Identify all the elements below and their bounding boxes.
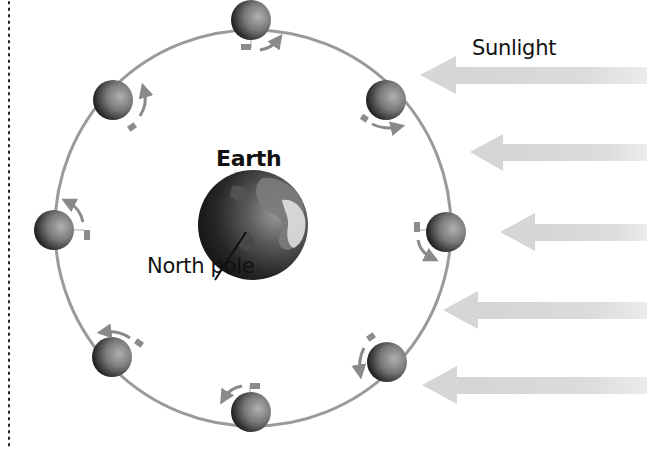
sunlight-arrow-1 [420,56,647,94]
moon-icon [92,337,132,377]
moon-icon [34,210,74,250]
moon-top [231,0,278,50]
rotation-arrow-icon [260,40,278,50]
moon-icon [366,80,406,120]
moon-icon [426,212,466,252]
moon-left [34,202,90,250]
rotation-arrow-icon [140,90,145,116]
flag-icon [360,114,369,123]
moon-top-right [360,80,406,128]
moon-icon [367,342,407,382]
moon-top-left [93,80,145,132]
moon-icon [93,80,133,120]
sunlight-arrow-4 [443,291,647,329]
moon-icon [231,392,271,432]
sunlight-arrow-5 [422,366,647,404]
moon-icon [231,0,271,40]
moon-bottom-right [360,332,408,382]
flag-icon [84,230,90,240]
diagram-canvas [0,0,647,450]
rotation-arrow-icon [360,348,365,372]
flag-icon [250,383,260,389]
flag-icon [414,222,420,232]
flag-icon [127,122,137,132]
sunlight-label: Sunlight [472,36,556,60]
flag-icon [366,332,376,342]
earth-label: Earth [216,146,281,171]
rotation-arrow-icon [372,124,398,128]
flag-icon [134,338,144,348]
rotation-arrow-icon [104,332,130,338]
moon-orbit-diagram: Sunlight Earth North pole [0,0,647,450]
north-pole-label: North pole [147,254,254,278]
flag-icon [241,44,251,50]
moon-right [414,212,466,258]
sunlight-arrow-3 [500,213,647,251]
moon-bottom-left [92,332,144,377]
sunlight-arrow-2 [470,134,647,171]
